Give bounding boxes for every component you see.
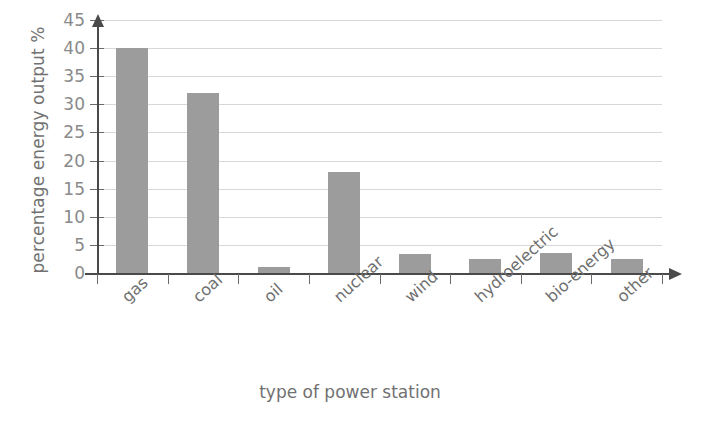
y-tick-label: 0 (41, 263, 85, 283)
gridline (97, 20, 662, 21)
y-tick-label: 10 (41, 207, 85, 227)
x-axis-title: type of power station (120, 382, 580, 402)
y-tick-label: 30 (41, 94, 85, 114)
gridline (97, 76, 662, 77)
gridline (97, 245, 662, 246)
x-tick-mark (591, 274, 592, 284)
y-axis-arrow-icon (92, 14, 104, 27)
gridline (97, 189, 662, 190)
y-tick-label: 40 (41, 38, 85, 58)
x-tick-mark (309, 274, 310, 284)
gridline (97, 48, 662, 49)
x-axis-arrow-icon (669, 268, 682, 280)
gridline (97, 161, 662, 162)
x-tick-mark (450, 274, 451, 284)
x-tick-label-gas: gas (118, 273, 152, 306)
x-tick-label-oil: oil (260, 279, 287, 306)
bar-nuclear (328, 172, 360, 273)
y-tick-label: 25 (41, 122, 85, 142)
x-tick-mark (521, 274, 522, 284)
y-tick-label: 15 (41, 179, 85, 199)
gridline (97, 217, 662, 218)
bar-gas (116, 48, 148, 273)
plot-area: 051015202530354045 (97, 20, 662, 273)
x-tick-label-coal: coal (189, 270, 226, 306)
gridline (97, 104, 662, 105)
y-axis-line (97, 24, 99, 274)
y-tick-label: 20 (41, 151, 85, 171)
gridline (97, 132, 662, 133)
x-tick-mark (168, 274, 169, 284)
y-tick-label: 5 (41, 235, 85, 255)
y-tick-label: 45 (41, 10, 85, 30)
x-tick-mark (238, 274, 239, 284)
x-tick-mark (97, 274, 98, 284)
bar-chart: percentage energy output % type of power… (0, 0, 704, 424)
x-tick-mark (662, 274, 663, 284)
x-tick-mark (380, 274, 381, 284)
bar-coal (187, 93, 219, 273)
y-tick-label: 35 (41, 66, 85, 86)
